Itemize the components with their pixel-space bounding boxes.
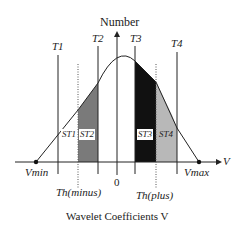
y-axis-arrow-icon (114, 31, 120, 37)
v-min-dot (34, 160, 38, 164)
region-st3-label: ST3 (137, 129, 153, 140)
th-plus-label: Th(plus) (136, 189, 173, 201)
v-max-label: Vmax (184, 166, 209, 178)
t4-label: T4 (171, 37, 183, 49)
t3-label: T3 (130, 32, 142, 44)
region-st2-label: ST2 (79, 129, 95, 140)
y-axis-label: Number (100, 15, 139, 30)
x-axis-symbol: V (223, 155, 230, 167)
t1-label: T1 (52, 40, 64, 52)
x-axis-arrow-icon (216, 159, 222, 165)
diagram-canvas (0, 0, 237, 229)
origin-label: 0 (114, 176, 120, 188)
x-axis-title: Wavelet Coefficients V (66, 210, 169, 222)
region-st1-label: ST1 (61, 129, 77, 140)
v-max-dot (197, 160, 201, 164)
region-st4-label: ST4 (158, 129, 174, 140)
region-st3 (135, 61, 156, 162)
th-minus-label: Th(minus) (56, 186, 101, 198)
t2-label: T2 (92, 32, 104, 44)
region-st2 (78, 83, 98, 162)
v-min-label: Vmin (25, 166, 48, 178)
